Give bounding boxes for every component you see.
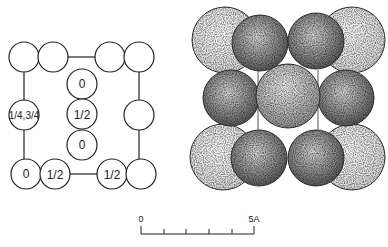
- atom: [124, 100, 154, 130]
- label-center-bottom: 0: [79, 138, 86, 152]
- scale-start-label: 0: [138, 214, 143, 224]
- scale-bar: [141, 226, 254, 234]
- label-bottom-left: 0: [23, 167, 30, 181]
- label-bottom-third: 1/2: [104, 168, 121, 182]
- label-left-mid: 1/4,3/4: [9, 110, 40, 121]
- atom: [95, 42, 125, 72]
- label-bottom-second: 1/2: [47, 168, 64, 182]
- stipple-texture: [190, 7, 385, 190]
- atom: [38, 42, 68, 72]
- atom: [9, 42, 39, 72]
- label-center-mid: 1/2: [74, 108, 91, 122]
- scale-end-label: 5A: [248, 214, 259, 224]
- atom: [126, 159, 156, 189]
- label-center-top: 0: [79, 77, 86, 91]
- crystal-structure-figure: 0 1/2 0 1/4,3/4 0 1/2 1/2: [0, 0, 388, 247]
- atom: [124, 42, 154, 72]
